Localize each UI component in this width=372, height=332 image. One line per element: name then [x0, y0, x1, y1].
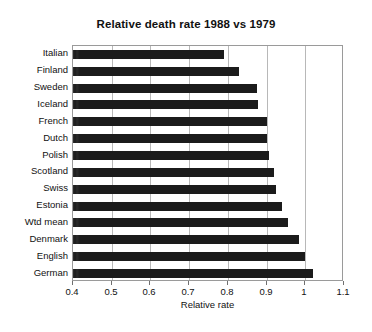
bar — [73, 252, 305, 261]
x-tick-label: 1.1 — [323, 286, 363, 297]
x-tick-mark — [304, 281, 305, 285]
x-tick-label: 0.8 — [207, 286, 247, 297]
bar-row — [73, 113, 342, 130]
y-axis-category-labels: ItalianFinlandSwedenIcelandFrenchDutchPo… — [0, 45, 68, 281]
y-axis-label: Finland — [0, 65, 68, 75]
x-tick-label: 0.6 — [129, 286, 169, 297]
bar-row — [73, 80, 342, 97]
bar — [73, 202, 282, 211]
bar-row — [73, 265, 342, 282]
bar — [73, 151, 269, 160]
x-tick-mark — [111, 281, 112, 285]
y-axis-label: Wtd mean — [0, 217, 68, 227]
bars-container — [73, 46, 342, 280]
x-tick-mark — [72, 281, 73, 285]
x-tick-label: 1 — [284, 286, 324, 297]
x-tick-label: 0.5 — [91, 286, 131, 297]
x-tick-label: 0.7 — [168, 286, 208, 297]
y-axis-label: Scotland — [0, 166, 68, 176]
bar-row — [73, 97, 342, 114]
y-axis-label: Sweden — [0, 82, 68, 92]
y-axis-label: Italian — [0, 48, 68, 58]
bar — [73, 168, 274, 177]
bar-row — [73, 63, 342, 80]
bar-row — [73, 215, 342, 232]
y-axis-label: Dutch — [0, 133, 68, 143]
bar — [73, 84, 257, 93]
x-tick-mark — [149, 281, 150, 285]
bar — [73, 67, 239, 76]
y-axis-label: Denmark — [0, 234, 68, 244]
bar-chart: Relative death rate 1988 vs 1979 Italian… — [0, 0, 372, 332]
bar-row — [73, 198, 342, 215]
plot-area — [72, 45, 343, 281]
x-tick-label: 0.9 — [246, 286, 286, 297]
bar-row — [73, 147, 342, 164]
chart-title: Relative death rate 1988 vs 1979 — [0, 18, 372, 30]
x-tick-label: 0.4 — [52, 286, 92, 297]
bar-row — [73, 231, 342, 248]
y-axis-label: French — [0, 116, 68, 126]
y-axis-label: Swiss — [0, 183, 68, 193]
x-tick-mark — [227, 281, 228, 285]
y-axis-label: English — [0, 251, 68, 261]
bar — [73, 50, 224, 59]
bar-row — [73, 130, 342, 147]
bar — [73, 269, 313, 278]
bar-row — [73, 181, 342, 198]
y-axis-label: Polish — [0, 150, 68, 160]
bar-row — [73, 164, 342, 181]
x-axis-title: Relative rate — [72, 299, 343, 310]
bar — [73, 218, 288, 227]
y-axis-label: German — [0, 268, 68, 278]
y-axis-label: Iceland — [0, 99, 68, 109]
bar — [73, 117, 267, 126]
x-axis-ticks: 0.40.50.60.70.80.911.1 — [72, 281, 343, 299]
x-tick-mark — [266, 281, 267, 285]
bar — [73, 100, 258, 109]
bar — [73, 185, 276, 194]
y-axis-label: Estonia — [0, 200, 68, 210]
bar-row — [73, 248, 342, 265]
x-tick-mark — [188, 281, 189, 285]
bar — [73, 134, 267, 143]
x-tick-mark — [343, 281, 344, 285]
bar — [73, 235, 299, 244]
bar-row — [73, 46, 342, 63]
